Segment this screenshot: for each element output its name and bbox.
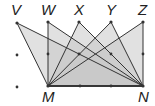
label-w: W — [41, 1, 57, 18]
grid-dot — [110, 85, 113, 88]
label-z: Z — [137, 1, 148, 18]
triangle-diagram: V W X Y Z M N — [0, 0, 155, 106]
label-v: V — [11, 1, 23, 18]
vertex-v — [15, 21, 18, 24]
vertex-y — [109, 20, 112, 23]
grid-dot — [79, 85, 82, 88]
grid-dot — [142, 53, 145, 56]
grid-dot — [78, 53, 81, 56]
grid-dot — [110, 53, 113, 56]
vertex-x — [77, 20, 80, 23]
label-m: M — [42, 88, 55, 105]
vertex-w — [46, 20, 49, 23]
grid-dot — [47, 53, 50, 56]
label-n: N — [138, 88, 149, 105]
label-x: X — [73, 1, 85, 18]
grid-dot — [16, 54, 19, 57]
vertex-z — [141, 20, 144, 23]
diagram-canvas: V W X Y Z M N — [0, 0, 155, 106]
grid-dot — [16, 86, 19, 89]
label-y: Y — [106, 1, 117, 18]
